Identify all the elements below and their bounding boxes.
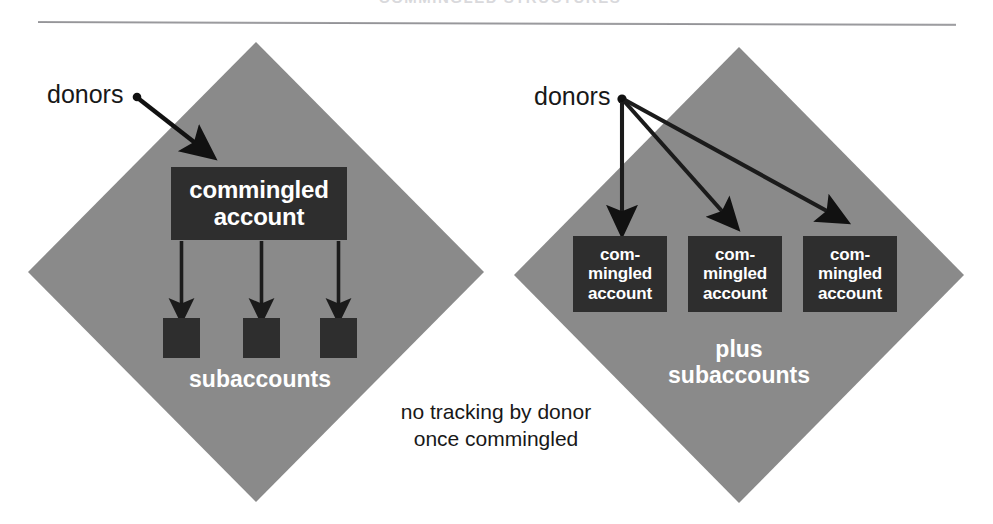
caption-line-2: once commingled [346, 425, 646, 452]
commingled-account-line1: com- [830, 245, 870, 264]
caption-line-1: no tracking by donor [346, 398, 646, 425]
commingled-account-box: com- mingled account [573, 236, 667, 312]
subaccount-square [320, 318, 357, 358]
diagram-page: COMMINGLED STRUCTURES commingled [0, 0, 993, 524]
commingled-account-line2: mingled [588, 264, 652, 283]
commingled-account-line3: account [703, 284, 767, 303]
commingled-account-line1: com- [600, 245, 640, 264]
donors-label-right: donors [534, 82, 610, 111]
commingled-account-box: com- mingled account [803, 236, 897, 312]
commingled-account-line3: account [818, 284, 882, 303]
caption: no tracking by donor once commingled [346, 398, 646, 453]
plus-subaccounts-label: plus subaccounts [639, 336, 839, 389]
commingled-account-box: commingled account [171, 167, 347, 240]
donors-label-left: donors [47, 80, 123, 109]
subaccounts-label: subaccounts [160, 366, 360, 392]
commingled-account-line1: commingled [189, 177, 328, 204]
subaccount-square [243, 318, 280, 358]
subaccount-square [163, 318, 200, 358]
commingled-account-line2: mingled [818, 264, 882, 283]
commingled-account-line1: com- [715, 245, 755, 264]
commingled-account-line2: account [214, 204, 305, 231]
right-subaccounts-label: subaccounts [639, 362, 839, 388]
commingled-account-line2: mingled [703, 264, 767, 283]
commingled-account-line3: account [588, 284, 652, 303]
plus-label: plus [639, 336, 839, 362]
commingled-account-box: com- mingled account [688, 236, 782, 312]
